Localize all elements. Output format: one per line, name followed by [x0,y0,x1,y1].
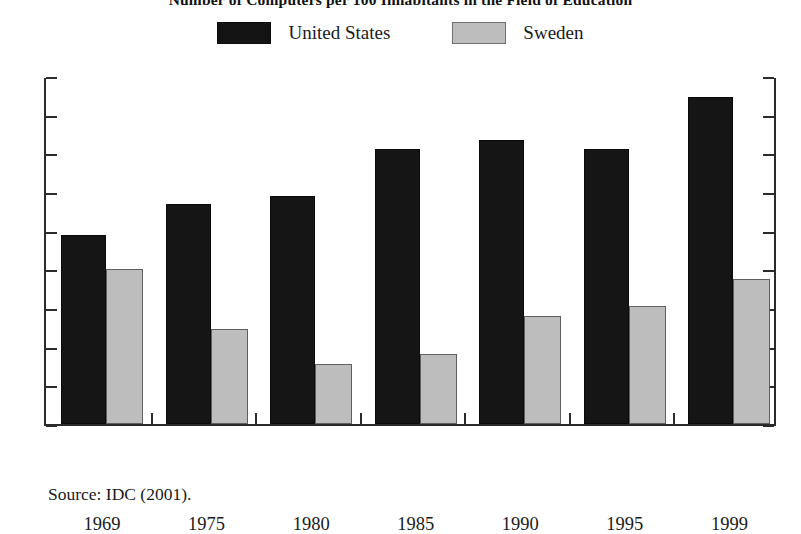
x-axis-tick [360,413,362,424]
x-axis-label-1975: 1975 [188,514,225,534]
y-axis-tick [763,154,774,156]
y-axis-tick [763,116,774,118]
x-axis-tick [464,413,466,424]
bar-sweden-1985 [420,354,457,424]
y-axis-tick [46,77,57,79]
legend-swatch-black-icon [217,22,271,44]
bar-united-states-1990 [479,140,524,424]
bar-sweden-1980 [315,364,352,424]
y-axis-tick [763,232,774,234]
chart-title: Number of Computers per 100 Inhabitants … [0,0,801,9]
x-axis-label-1990: 1990 [502,514,539,534]
source-note: Source: IDC (2001). [48,484,191,505]
x-axis-label-1985: 1985 [397,514,434,534]
legend-swatch-gray-icon [452,22,506,44]
x-axis-label-1999: 1999 [711,514,748,534]
y-axis-tick [46,386,57,388]
legend-label-united-states: United States [288,22,390,44]
y-axis-tick [763,425,774,427]
y-axis-tick [763,193,774,195]
x-axis-tick [673,413,675,424]
bar-sweden-1975 [211,329,248,424]
y-axis-tick [46,154,57,156]
y-axis-tick [46,232,57,234]
bar-united-states-1975 [166,204,211,424]
legend-label-sweden: Sweden [523,22,583,44]
bar-sweden-1969 [106,269,143,424]
y-axis-tick [763,77,774,79]
x-axis-label-1969: 1969 [84,514,121,534]
plot-area: 00.10.20.30.40.50.60.70.80.9196919751980… [44,78,776,426]
x-axis-tick [569,413,571,424]
bar-sweden-1990 [524,316,561,424]
x-axis-tick [255,413,257,424]
chart-legend: United States Sweden [0,22,801,44]
y-axis-tick [46,116,57,118]
x-axis-label-1980: 1980 [293,514,330,534]
y-axis-tick [46,270,57,272]
y-axis-tick [46,193,57,195]
bar-united-states-1999 [688,97,733,424]
bar-united-states-1985 [375,149,420,424]
bar-united-states-1995 [584,149,629,424]
y-axis-tick [763,270,774,272]
legend-item-united-states: United States [217,22,390,44]
bar-united-states-1969 [61,235,106,424]
bar-sweden-1995 [629,306,666,424]
y-axis-tick [46,348,57,350]
y-axis-tick [46,309,57,311]
x-axis-tick [151,413,153,424]
y-axis-tick [46,425,57,427]
bar-sweden-1999 [733,279,770,424]
x-axis-label-1995: 1995 [606,514,643,534]
legend-item-sweden: Sweden [452,22,583,44]
bar-united-states-1980 [270,196,315,424]
